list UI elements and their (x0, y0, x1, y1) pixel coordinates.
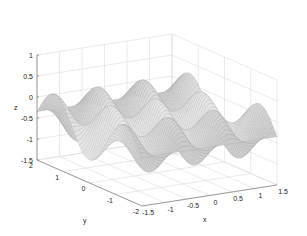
surface-mesh (37, 73, 277, 173)
x-axis-label: x (203, 216, 207, 223)
z-tick-label: 0 (29, 94, 33, 101)
z-tick-label: -0.5 (21, 115, 33, 122)
z-axis-ticks: 10.50-0.5-1-1.5 (21, 52, 33, 164)
z-tick-label: 1 (29, 52, 33, 59)
z-axis-label: z (14, 104, 18, 111)
y-tick-label: 2 (29, 162, 33, 169)
y-axis-label: y (83, 217, 87, 225)
x-tick-label: 0.5 (233, 195, 243, 202)
x-tick-label: 1.5 (278, 188, 288, 195)
z-tick-label: -1 (27, 136, 33, 143)
y-tick-label: -1 (107, 197, 113, 204)
surface-plot: 10.50-0.5-1-1.5 210-1-2 -1.5-1-0.500.511… (0, 0, 307, 236)
axes-box (37, 34, 277, 206)
y-tick-label: 1 (55, 174, 59, 181)
x-tick-label: -1 (167, 206, 173, 213)
y-tick-label: 0 (82, 185, 86, 192)
y-tick-label: -2 (133, 208, 139, 215)
x-tick-label: -1.5 (142, 209, 154, 216)
x-tick-label: 0 (214, 199, 218, 206)
z-tick-label: 0.5 (23, 73, 33, 80)
x-tick-label: -0.5 (187, 202, 199, 209)
y-axis-ticks: 210-1-2 (29, 162, 139, 215)
x-tick-label: 1 (259, 192, 263, 199)
